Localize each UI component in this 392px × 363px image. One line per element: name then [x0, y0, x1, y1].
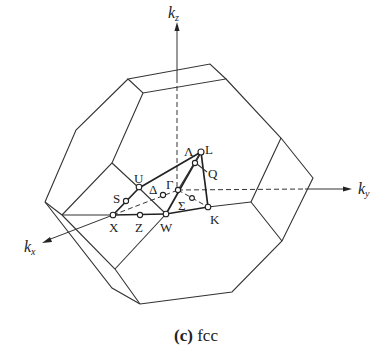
polyhedron-edges [45, 64, 313, 304]
svg-text:Q: Q [208, 166, 218, 181]
point-sigma [190, 196, 195, 201]
point-W [163, 211, 169, 217]
point-gamma [175, 187, 180, 192]
brillouin-zone-diagram: L Λ Q Γ Δ U S X Z W K Σ kz ky kx [0, 0, 392, 363]
svg-text:kx: kx [24, 238, 36, 257]
svg-text:W: W [160, 220, 173, 235]
svg-text:K: K [210, 212, 220, 227]
point-X [110, 212, 116, 218]
point-S [123, 198, 128, 203]
svg-text:Δ: Δ [149, 182, 157, 197]
svg-text:Σ: Σ [178, 198, 186, 213]
svg-text:L: L [205, 142, 213, 157]
point-K [205, 204, 211, 210]
symmetry-points [110, 149, 211, 218]
svg-text:kz: kz [168, 4, 179, 23]
svg-text:S: S [113, 191, 120, 206]
svg-text:ky: ky [358, 180, 370, 199]
svg-text:Z: Z [135, 220, 143, 235]
svg-text:Λ: Λ [184, 144, 194, 159]
figure-caption: (c) fcc [0, 326, 392, 346]
point-delta [160, 192, 165, 197]
svg-text:U: U [134, 171, 144, 186]
caption-letter: (c) [174, 326, 193, 345]
svg-text:Γ: Γ [166, 177, 174, 192]
svg-text:X: X [109, 220, 119, 235]
axes [42, 22, 352, 243]
caption-text: fcc [197, 326, 218, 345]
point-lambda [192, 160, 197, 165]
point-Z [137, 212, 142, 217]
point-L [198, 149, 204, 155]
